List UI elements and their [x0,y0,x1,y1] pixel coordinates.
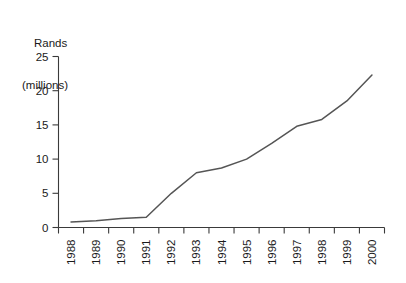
x-tick-label: 1999 [341,240,353,266]
y-tick-label: 20 [36,85,49,97]
x-axis-tick-labels: 1988198919901991199219931994199519961997… [65,239,378,265]
y-axis-tick-marks [53,57,59,228]
x-tick-label: 1988 [65,240,77,266]
y-tick-label: 25 [36,51,49,63]
line-chart-plot: 0510152025 19881989199019911992199319941… [0,0,406,283]
chart-figure: Rands (millions) 0510152025 198819891990… [0,0,406,283]
y-tick-label: 10 [36,153,49,165]
data-series-line [71,75,372,222]
y-tick-label: 15 [36,119,49,131]
x-tick-label: 1996 [266,240,278,266]
x-tick-label: 1989 [90,240,102,266]
x-tick-label: 1998 [316,240,328,266]
x-tick-label: 1995 [241,240,253,266]
y-axis-tick-labels: 0510152025 [36,51,49,234]
x-tick-label: 1991 [140,240,152,266]
x-tick-label: 1990 [115,240,127,266]
x-tick-label: 1993 [190,240,202,266]
y-tick-label: 0 [42,222,48,234]
y-tick-label: 5 [42,187,48,199]
x-tick-label: 1992 [165,240,177,266]
x-axis-tick-marks [59,228,385,234]
x-tick-label: 1997 [291,240,303,266]
x-tick-label: 1994 [216,239,228,265]
x-tick-label: 2000 [366,240,378,266]
